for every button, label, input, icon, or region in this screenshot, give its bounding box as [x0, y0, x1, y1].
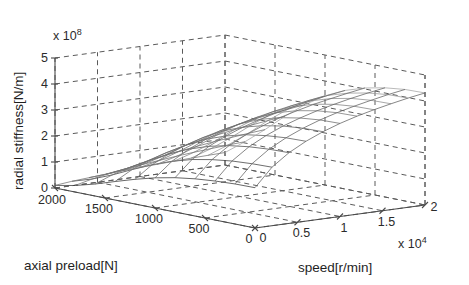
y-axis-label: speed[r/min] [298, 260, 372, 275]
x-tick-0: 0 [246, 232, 253, 246]
y-tick-0.5: 0.5 [293, 226, 310, 240]
z-tick-1: 1 [41, 155, 48, 169]
x-tick-2000: 2000 [38, 193, 66, 207]
z-tick-2: 2 [41, 129, 48, 143]
x-tick-1500: 1500 [85, 202, 113, 216]
z-tick-5: 5 [41, 51, 48, 65]
x-tick-500: 500 [189, 222, 210, 236]
z-tick-4: 4 [41, 77, 48, 91]
y-tick-0: 0 [260, 231, 267, 245]
y-tick-1: 1 [341, 221, 348, 235]
y-tick-1.5: 1.5 [378, 215, 395, 229]
z-axis-label: radial stiffness[N/m] [11, 72, 26, 190]
z-tick-3: 3 [41, 103, 48, 117]
radial-stiffness-surface-plot: 012345200015001000500000.511.52 x 108 x … [0, 0, 469, 285]
y-tick-2: 2 [431, 200, 438, 214]
x-tick-1000: 1000 [135, 212, 163, 226]
x-axis-label: axial preload[N] [24, 258, 118, 273]
